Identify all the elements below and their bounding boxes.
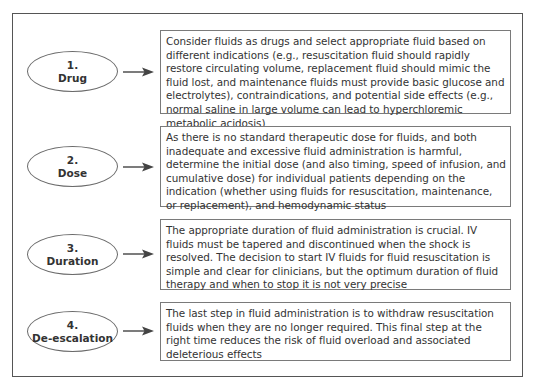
step-4-title: De-escalation bbox=[32, 332, 113, 345]
arrow-right-icon bbox=[123, 326, 154, 336]
step-2-ellipse: 2. Dose bbox=[27, 146, 118, 187]
step-3-number: 3. bbox=[67, 242, 78, 255]
step-1-description-box: Consider fluids as drugs and select appr… bbox=[160, 30, 511, 114]
step-4-description: The last step in fluid administration is… bbox=[166, 307, 494, 360]
step-4-description-box: The last step in fluid administration is… bbox=[160, 302, 511, 361]
step-1-title: Drug bbox=[58, 72, 87, 85]
step-3-description: The appropriate duration of fluid admini… bbox=[166, 224, 498, 290]
step-3-title: Duration bbox=[47, 255, 99, 268]
step-2-description-box: As there is no standard therapeutic dose… bbox=[160, 126, 511, 207]
arrow-right-icon bbox=[123, 67, 154, 77]
arrow-right-icon bbox=[123, 162, 154, 172]
step-3-description-box: The appropriate duration of fluid admini… bbox=[160, 219, 511, 290]
step-2-description: As there is no standard therapeutic dose… bbox=[166, 131, 506, 211]
step-1-number: 1. bbox=[67, 59, 78, 72]
arrow-right-icon bbox=[123, 249, 154, 259]
step-2-title: Dose bbox=[58, 167, 87, 180]
step-1-ellipse: 1. Drug bbox=[27, 51, 118, 92]
step-4-number: 4. bbox=[67, 319, 78, 332]
step-4-ellipse: 4. De-escalation bbox=[27, 311, 118, 352]
step-2-number: 2. bbox=[67, 154, 78, 167]
step-3-ellipse: 3. Duration bbox=[27, 234, 118, 275]
step-1-description: Consider fluids as drugs and select appr… bbox=[166, 35, 504, 129]
